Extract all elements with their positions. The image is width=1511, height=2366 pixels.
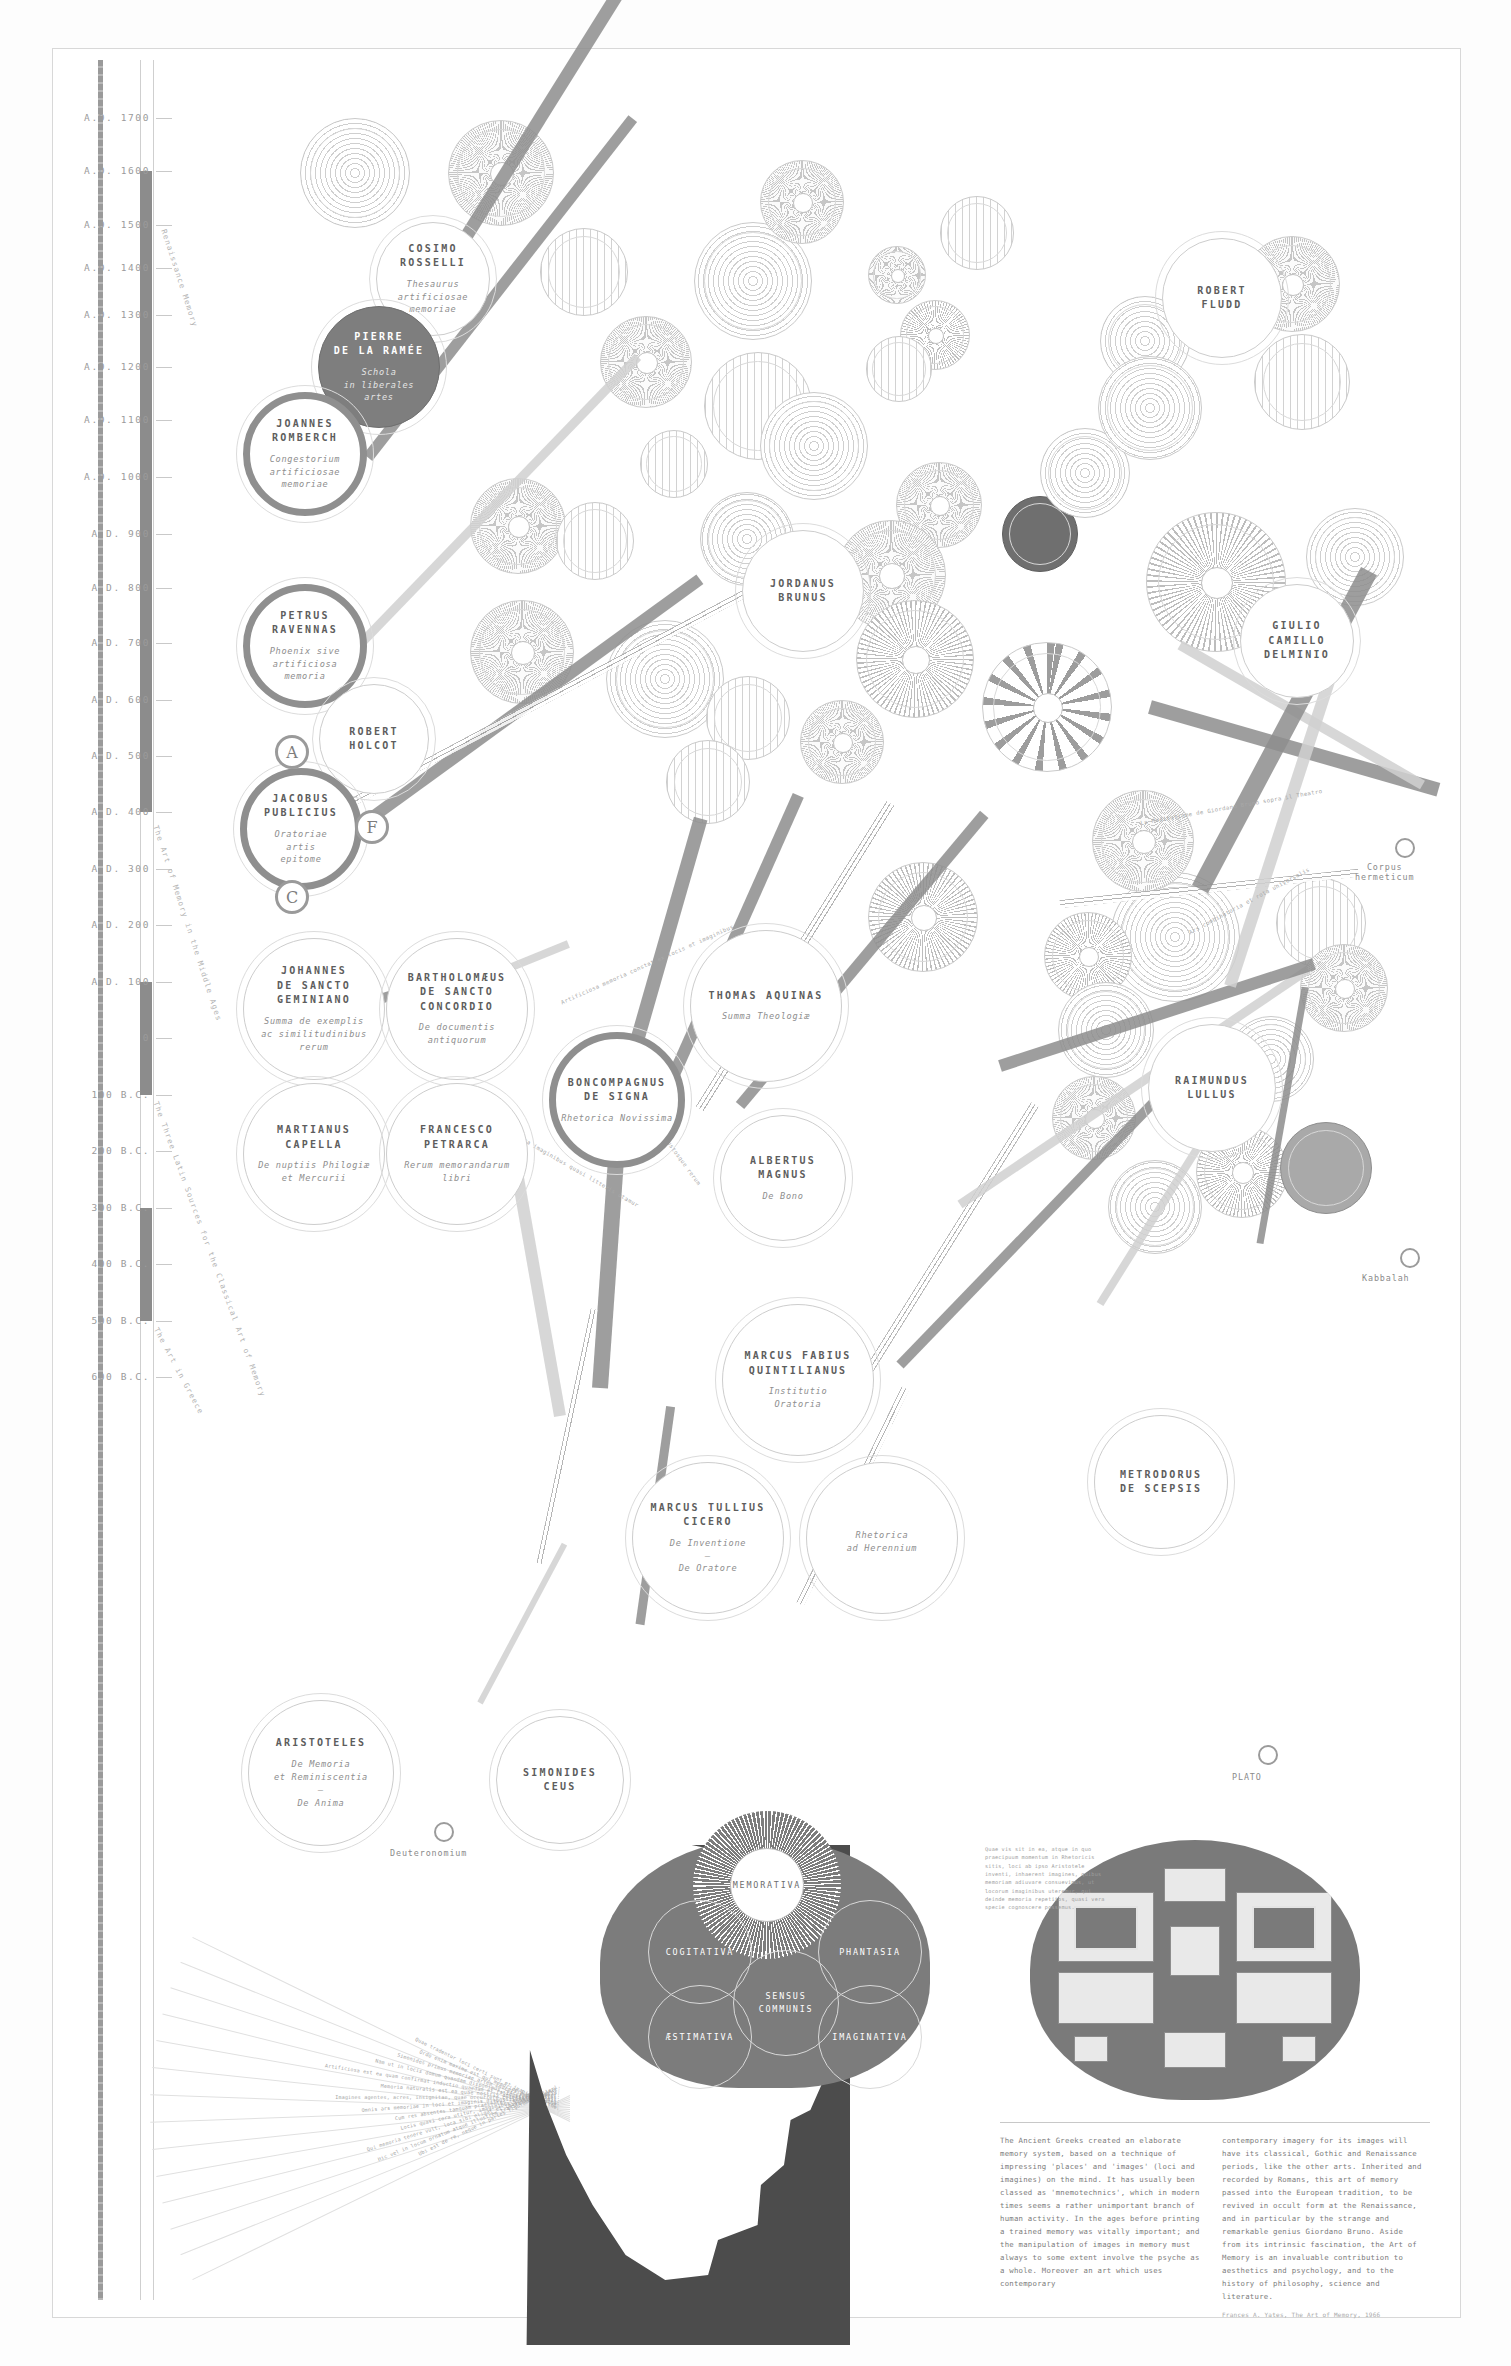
tick-mark (156, 643, 172, 644)
author-node-martianus-capella[interactable]: MARTIANUSCAPELLADe nuptiis Philogiæet Me… (243, 1083, 385, 1225)
author-work-title: Scholain liberalesartes (344, 366, 415, 405)
author-node-albertus-magnus[interactable]: ALBERTUSMAGNUSDe Bono (720, 1115, 846, 1241)
tick-mark (156, 1038, 172, 1039)
timeline-tick: A.D. 600 (0, 694, 150, 705)
timeline-tick: A.D. 400 (0, 806, 150, 817)
author-work-title: De Memoriaet Reminiscentia—De Anima (274, 1758, 368, 1810)
emblem-inner-ring (1107, 365, 1193, 451)
author-work-title: De documentisantiquorum (419, 1021, 495, 1047)
tick-mark (156, 1377, 172, 1378)
tick-mark (156, 534, 172, 535)
tick-mark (156, 315, 172, 316)
emblem-disc (760, 392, 868, 500)
tick-mark (156, 588, 172, 589)
author-name: COSIMOROSSELLI (400, 242, 466, 271)
author-name: SIMONIDESCEUS (523, 1766, 597, 1795)
timeline-tick: A.D. 1300 (0, 309, 150, 320)
emblem-disc (940, 196, 1014, 270)
author-name: THOMAS AQUINAS (708, 989, 823, 1004)
source-endpoint-label: Deuteronomium (390, 1848, 467, 1858)
emblem-hub (1232, 1162, 1254, 1184)
timeline-tick: A.D. 300 (0, 863, 150, 874)
timeline-tick: 500 B.C. (0, 1315, 150, 1326)
author-node-robert-holcot[interactable]: ROBERTHOLCOT (319, 684, 429, 794)
timeline-tick: A.D. 100 (0, 976, 150, 987)
alphabet-badge-c[interactable]: C (275, 880, 309, 914)
tick-mark (156, 925, 172, 926)
source-endpoint-marker[interactable] (434, 1822, 454, 1842)
emblem-disc (540, 228, 628, 316)
emblem-hub (793, 193, 813, 213)
essay-divider-rule (1000, 2122, 1430, 2123)
author-node-jordanus-brunus[interactable]: JORDANUSBRUNUS (742, 530, 864, 652)
ventricle--stimativa[interactable]: ÆSTIMATIVA (648, 1985, 752, 2089)
author-name: JACOBUSPUBLICIUS (264, 792, 338, 821)
emblem-inner-ring (1009, 503, 1071, 565)
tick-mark (156, 171, 172, 172)
emblem-hub (902, 646, 930, 674)
author-name: ARISTOTELES (276, 1736, 366, 1751)
emblem-inner-ring (1263, 343, 1342, 422)
source-endpoint-marker[interactable] (1395, 838, 1415, 858)
tick-mark (156, 477, 172, 478)
author-node-boncompagnus-de-signa[interactable]: BONCOMPAGNUSDE SIGNARhetorica Novissima (549, 1032, 685, 1168)
author-node-thomas-aquinas[interactable]: THOMAS AQUINASSumma Theologiæ (690, 930, 842, 1082)
author-node-jacobus-publicius[interactable]: JACOBUSPUBLICIUSOratoriaeartisepitome (240, 768, 362, 890)
author-node-rhetorica-ad-herennium[interactable]: Rhetoricaad Herennium (806, 1462, 958, 1614)
source-endpoint-marker[interactable] (1258, 1745, 1278, 1765)
tick-mark (156, 700, 172, 701)
ventricle-imaginativa[interactable]: IMAGINATIVA (818, 1985, 922, 2089)
essay-column-2: contemporary imagery for its images will… (1222, 2135, 1426, 2320)
emblem-disc (868, 862, 978, 972)
emblem-hub (1132, 830, 1156, 854)
author-node-raimundus-lullus[interactable]: RAIMUNDUSLULLUS (1148, 1024, 1276, 1152)
latin-quotation-line: Simonides primus memoriae artem inveniss… (138, 1969, 561, 2110)
author-node-robert-fludd[interactable]: ROBERTFLUDD (1162, 238, 1282, 358)
emblem-inner-ring (1116, 1168, 1193, 1245)
ventricle-memorativa[interactable]: MEMORATIVA (730, 1848, 804, 1922)
emblem-inner-ring (872, 342, 926, 396)
emblem-inner-ring (674, 748, 743, 817)
tick-mark (156, 420, 172, 421)
emblem-disc (1300, 944, 1388, 1032)
tick-mark (156, 225, 172, 226)
author-node-aristoteles[interactable]: ARISTOTELESDe Memoriaet Reminiscentia—De… (248, 1700, 394, 1846)
author-node-simonides-ceus[interactable]: SIMONIDESCEUS (496, 1716, 624, 1844)
timeline-tick: A.D. 1000 (0, 471, 150, 482)
timeline-tick: A.D. 700 (0, 637, 150, 648)
author-node-francesco-petrarca[interactable]: FRANCESCOPETRARCARerum memorandarumlibri (386, 1083, 528, 1225)
emblem-disc (1058, 982, 1154, 1078)
author-name: ROBERTHOLCOT (349, 725, 398, 754)
author-work-title: Rhetoricaad Herennium (847, 1529, 918, 1555)
emblem-disc (300, 118, 410, 228)
author-node-giulio-camillo-delminio[interactable]: GIULIOCAMILLODELMINIO (1240, 584, 1354, 698)
emblem-inner-ring (616, 630, 713, 727)
author-node-marcus-tullius-cicero[interactable]: MARCUS TULLIUSCICERODe Inventione—De Ora… (632, 1462, 784, 1614)
emblem-inner-ring (769, 401, 858, 490)
timeline-tick: 0 (0, 1032, 150, 1043)
source-endpoint-label: Corpushermeticum (1355, 862, 1414, 882)
author-work-title: Rhetorica Novissima (561, 1112, 673, 1125)
author-node-marcus-fabius-quintilianus[interactable]: MARCUS FABIUSQUINTILIANUSInstitutioOrato… (722, 1304, 874, 1456)
author-name: PIERREDE LA RAMÉE (334, 330, 424, 359)
emblem-disc (640, 430, 708, 498)
author-node-bartholomaeus-de-sancto-concordio[interactable]: BARTHOLOMÆUSDE SANCTOCONCORDIODe documen… (386, 938, 528, 1080)
author-node-johannes-de-sancto-geminiano[interactable]: JOHANNESDE SANCTOGEMINIANOSumma de exemp… (243, 938, 385, 1080)
alphabet-badge-a[interactable]: A (275, 735, 309, 769)
emblem-disc (1280, 1122, 1372, 1214)
emblem-inner-ring (1067, 991, 1146, 1070)
emblem-inner-ring (1121, 883, 1229, 991)
emblem-hub (833, 733, 853, 753)
author-node-metrodorus-de-scepsis[interactable]: METRODORUSDE SCEPSIS (1094, 1415, 1228, 1549)
alphabet-badge-f[interactable]: F (355, 810, 389, 844)
timeline-rail (98, 60, 103, 2300)
tick-mark (156, 1208, 172, 1209)
timeline-tick: 400 B.C. (0, 1258, 150, 1269)
source-endpoint-marker[interactable] (1400, 1248, 1420, 1268)
emblem-disc (448, 120, 554, 226)
emblem-hub (879, 563, 905, 589)
emblem-hub (1085, 1109, 1105, 1129)
author-name: JORDANUSBRUNUS (770, 577, 836, 606)
author-name: ALBERTUSMAGNUS (750, 1154, 816, 1183)
author-node-joannes-romberch[interactable]: JOANNESROMBERCHCongestoriumartificiosaem… (243, 392, 367, 516)
